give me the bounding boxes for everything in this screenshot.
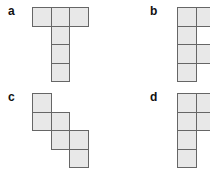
net-square (32, 93, 52, 113)
panel-label-c: c (8, 91, 15, 103)
panel-label-b: b (150, 5, 157, 17)
net-square (32, 7, 52, 27)
net-square (51, 44, 71, 64)
net-square (69, 149, 89, 169)
net-square (51, 26, 71, 46)
net-square (196, 7, 211, 27)
net-square (69, 7, 89, 27)
net-square (177, 26, 197, 46)
net-square (51, 63, 71, 83)
net-square (177, 93, 197, 113)
net-square (51, 130, 71, 150)
net-square (32, 112, 52, 132)
net-square (177, 44, 197, 64)
panel-label-a: a (8, 5, 15, 17)
net-square (177, 7, 197, 27)
net-square (196, 112, 211, 132)
net-square (177, 130, 197, 150)
net-square (69, 130, 89, 150)
net-square (177, 63, 197, 83)
net-square (51, 112, 71, 132)
net-square (177, 112, 197, 132)
net-square (196, 93, 211, 113)
panel-label-d: d (150, 91, 157, 103)
net-square (51, 7, 71, 27)
net-square (177, 149, 197, 169)
net-square (196, 44, 211, 64)
